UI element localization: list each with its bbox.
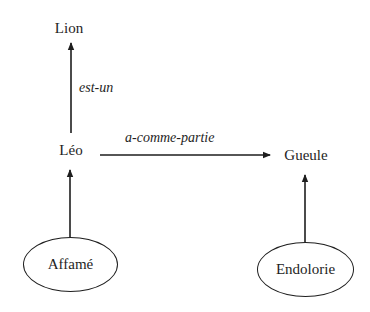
node-gueule: Gueule	[284, 147, 327, 164]
node-endolorie-label: Endolorie	[276, 261, 335, 278]
edge-label-a-comme-partie: a-comme-partie	[125, 130, 214, 146]
node-leo: Léo	[59, 142, 82, 159]
semantic-network-diagram: Lion Léo Gueule est-un a-comme-partie Af…	[0, 0, 370, 312]
node-lion: Lion	[55, 20, 83, 37]
node-affame: Affamé	[23, 237, 118, 292]
edge-label-est-un: est-un	[79, 80, 113, 96]
node-affame-label: Affamé	[48, 256, 94, 273]
node-endolorie: Endolorie	[257, 242, 354, 297]
